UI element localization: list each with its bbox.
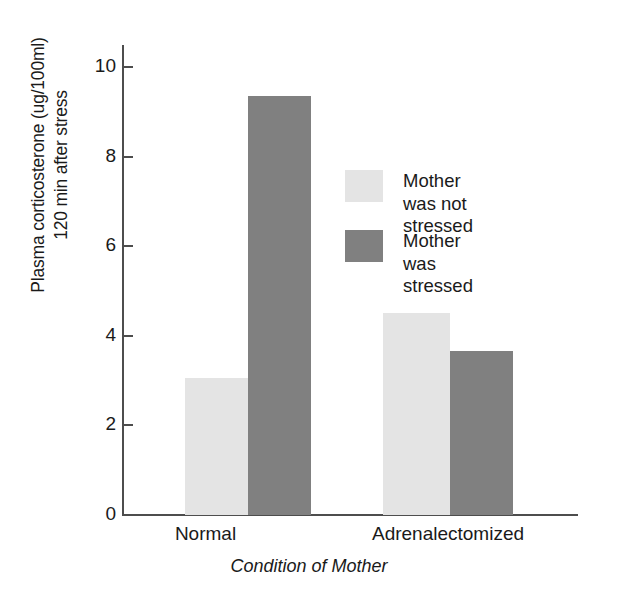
legend-label-stressed: Mother was stressed xyxy=(403,230,473,298)
x-axis-category-label-adrenalectomized: Adrenalectomized xyxy=(348,523,548,545)
bar-chart-figure: Plasma corticosterone (ug/100ml) 120 min… xyxy=(0,0,618,595)
bar-normal-mother-was-not-stressed xyxy=(185,378,248,515)
bar-adrenalectomized-mother-was-stressed xyxy=(450,351,513,515)
bar-normal-mother-was-stressed xyxy=(248,96,311,515)
x-axis-title: Condition of Mother xyxy=(0,556,618,577)
legend-item-stressed: Mother was stressed xyxy=(345,230,473,298)
legend-swatch-not-stressed xyxy=(345,170,383,202)
x-axis-category-label-normal: Normal xyxy=(118,523,293,545)
legend-swatch-stressed xyxy=(345,230,383,262)
bar-adrenalectomized-mother-was-not-stressed xyxy=(383,313,450,515)
legend-label-not-stressed: Mother was not stressed xyxy=(403,170,473,238)
bars-group xyxy=(0,0,618,595)
legend-item-not-stressed: Mother was not stressed xyxy=(345,170,473,238)
